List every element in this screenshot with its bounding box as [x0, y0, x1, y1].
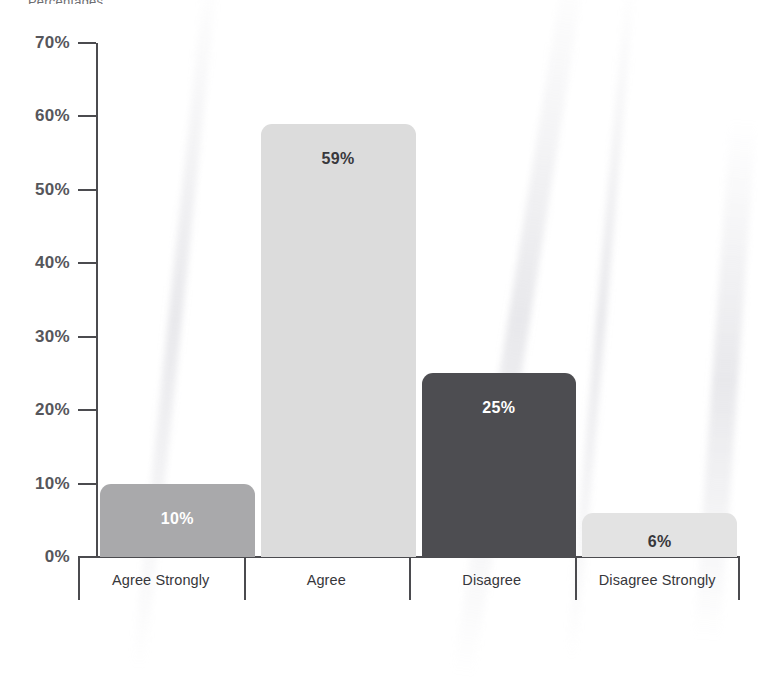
category-divider [575, 558, 577, 600]
category-label: Agree [244, 558, 410, 602]
y-axis-tick [78, 115, 96, 117]
y-axis-tick [78, 409, 96, 411]
bar-value-label: 59% [261, 150, 416, 168]
category-label: Disagree Strongly [575, 558, 741, 602]
bar-value-label: 6% [582, 533, 737, 551]
bar-value-label: 10% [100, 510, 255, 528]
y-axis-tick-label: 50% [0, 180, 70, 200]
bar[interactable]: 10% [100, 484, 255, 557]
category-divider [78, 558, 80, 600]
category-divider [244, 558, 246, 600]
y-axis-tick-label: 10% [0, 474, 70, 494]
y-axis-tick [78, 262, 96, 264]
y-axis-tick [78, 189, 96, 191]
bar[interactable]: 59% [261, 124, 416, 557]
y-axis-tick [78, 336, 96, 338]
y-axis-tick-label: 20% [0, 400, 70, 420]
category-label: Agree Strongly [78, 558, 244, 602]
category-label: Disagree [409, 558, 575, 602]
category-divider [738, 558, 740, 600]
y-axis-tick [78, 42, 96, 44]
y-axis-line [96, 43, 98, 558]
y-axis-tick [78, 483, 96, 485]
bar-value-label: 25% [422, 399, 577, 417]
category-axis: Agree StronglyAgreeDisagreeDisagree Stro… [78, 558, 740, 602]
y-axis-tick-label: 60% [0, 106, 70, 126]
top-caption: Percentages [28, 0, 103, 4]
bar[interactable]: 6% [582, 513, 737, 557]
y-axis-tick-label: 0% [0, 547, 70, 567]
category-divider [409, 558, 411, 600]
y-axis-tick-label: 70% [0, 33, 70, 53]
bar[interactable]: 25% [422, 373, 577, 557]
y-axis-tick-label: 30% [0, 327, 70, 347]
y-axis-tick-label: 40% [0, 253, 70, 273]
